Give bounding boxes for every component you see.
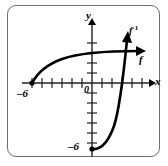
curve-f-label: f: [139, 54, 143, 65]
curve-f-inverse-label-exponent: -1: [132, 24, 138, 32]
x-intercept-label: –6: [17, 88, 28, 99]
curve-f-inverse-endpoint-dot: [89, 146, 94, 151]
graph-canvas: [0, 0, 168, 166]
origin-label: 0: [84, 85, 89, 95]
curve-f-inverse-label: f-1: [129, 25, 138, 36]
y-axis-label: y: [86, 10, 91, 21]
curve-f-endpoint-dot: [29, 80, 34, 85]
y-intercept-label: –6: [68, 141, 79, 152]
curve-f-inverse: [92, 40, 127, 149]
x-axis-label: x: [155, 76, 161, 87]
math-figure: y x f-1 f –6 –6 0: [0, 0, 168, 166]
